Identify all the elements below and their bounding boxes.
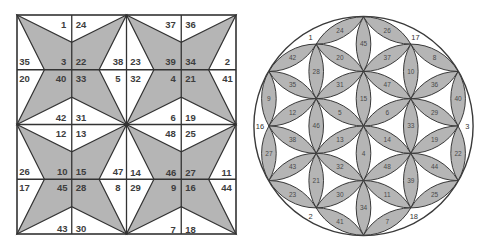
petal-number: 34 xyxy=(360,204,368,211)
cell-number: 26 xyxy=(19,166,30,177)
cell-number: 19 xyxy=(185,112,196,123)
cell-number: 5 xyxy=(115,73,121,84)
cell-number: 40 xyxy=(56,73,67,84)
cell-number: 47 xyxy=(113,166,124,177)
petal-number: 36 xyxy=(431,81,439,88)
cell-number: 11 xyxy=(221,167,232,178)
petal-number: 24 xyxy=(336,27,344,34)
petal-number: 46 xyxy=(313,122,321,129)
cell-number: 21 xyxy=(185,73,196,84)
figure-canvas: 1 24 35 3 22 38 20 40 33 5 42 31 37 36 2… xyxy=(0,0,485,251)
cell-number: 34 xyxy=(185,56,196,67)
cell-number: 39 xyxy=(165,56,176,67)
petal-number: 43 xyxy=(289,163,297,170)
petal-number: 45 xyxy=(360,40,368,47)
cell-number: 44 xyxy=(221,182,232,193)
cell-number: 12 xyxy=(56,128,67,139)
cell-number: 14 xyxy=(130,167,141,178)
petal-number: 28 xyxy=(313,68,321,75)
cell-number: 13 xyxy=(76,128,87,139)
petal-number: 4 xyxy=(362,150,366,157)
cell-number: 15 xyxy=(76,166,87,177)
outer-label-right: 3 xyxy=(465,122,469,131)
petal-number: 42 xyxy=(289,54,297,61)
cell-number: 27 xyxy=(185,167,196,178)
cell-number: 16 xyxy=(185,182,196,193)
cell-number: 41 xyxy=(222,73,233,84)
petal-number: 14 xyxy=(384,136,392,143)
cell-number: 9 xyxy=(171,182,176,193)
petal-number: 22 xyxy=(454,150,462,157)
outer-label-top-right: 17 xyxy=(411,33,419,42)
cell-number: 33 xyxy=(76,73,87,84)
petal-number: 23 xyxy=(289,191,297,198)
petal-number: 44 xyxy=(431,163,439,170)
outer-label-bottom-left: 2 xyxy=(309,212,313,221)
cell-number: 25 xyxy=(185,128,196,139)
cell-number: 45 xyxy=(57,182,68,193)
flower-circle: 24 26 45 42 28 20 37 10 8 35 31 15 47 36… xyxy=(254,16,473,235)
petal-number: 5 xyxy=(338,109,342,116)
petal-number: 48 xyxy=(384,163,392,170)
petal-number: 21 xyxy=(313,177,321,184)
petal-number: 12 xyxy=(289,109,297,116)
petal-number: 35 xyxy=(289,81,297,88)
cell-number: 43 xyxy=(57,223,68,234)
cell-number: 20 xyxy=(19,73,30,84)
cell-number: 4 xyxy=(170,73,176,84)
cell-number: 46 xyxy=(166,167,177,178)
outer-label-left: 16 xyxy=(256,122,264,131)
cell-number: 31 xyxy=(76,112,87,123)
petal-number: 40 xyxy=(454,95,462,102)
petal-number: 27 xyxy=(265,150,273,157)
petal-number: 38 xyxy=(289,136,297,143)
petal-number: 7 xyxy=(385,218,389,225)
cell-number: 23 xyxy=(130,56,141,67)
petal-number: 31 xyxy=(336,81,344,88)
petal-number: 9 xyxy=(267,95,271,102)
petal-number: 10 xyxy=(407,68,415,75)
petal-number: 47 xyxy=(384,81,392,88)
cell-number: 3 xyxy=(61,56,66,67)
square-star-grid: 1 24 35 3 22 38 20 40 33 5 42 31 37 36 2… xyxy=(17,15,236,235)
cell-number: 35 xyxy=(19,56,30,67)
cell-number: 29 xyxy=(130,182,141,193)
petal-number: 37 xyxy=(384,54,392,61)
petal-number: 41 xyxy=(336,218,344,225)
petal-number: 13 xyxy=(336,136,344,143)
cell-number: 37 xyxy=(165,19,176,30)
cell-number: 28 xyxy=(76,182,87,193)
petal-number: 19 xyxy=(431,136,439,143)
outer-label-top-left: 1 xyxy=(309,33,313,42)
cell-number: 8 xyxy=(115,182,120,193)
petal-number: 30 xyxy=(336,191,344,198)
cell-number: 30 xyxy=(76,223,87,234)
cell-number: 24 xyxy=(76,19,87,30)
petal-number: 29 xyxy=(431,109,439,116)
cell-number: 17 xyxy=(19,182,30,193)
petal-number: 25 xyxy=(431,191,439,198)
cell-number: 1 xyxy=(61,19,67,30)
petal-number: 20 xyxy=(336,54,344,61)
cell-number: 10 xyxy=(57,166,68,177)
petal-number: 39 xyxy=(407,177,415,184)
cell-number: 32 xyxy=(130,73,141,84)
cell-number: 2 xyxy=(225,56,230,67)
cell-number: 22 xyxy=(76,56,87,67)
petal-number: 11 xyxy=(384,191,391,198)
petal-number: 8 xyxy=(433,54,437,61)
petal-number: 15 xyxy=(360,95,368,102)
cell-number: 38 xyxy=(113,56,124,67)
cell-number: 48 xyxy=(165,128,176,139)
petal-number: 6 xyxy=(385,109,389,116)
cell-number: 42 xyxy=(56,112,67,123)
cell-number: 7 xyxy=(170,224,175,235)
petal-number: 26 xyxy=(384,27,392,34)
petal-number: 33 xyxy=(407,122,415,129)
outer-label-bottom-right: 18 xyxy=(410,212,418,221)
cell-number: 36 xyxy=(185,19,196,30)
cell-number: 18 xyxy=(185,224,196,235)
petal-number: 32 xyxy=(336,163,344,170)
cell-number: 6 xyxy=(170,112,175,123)
